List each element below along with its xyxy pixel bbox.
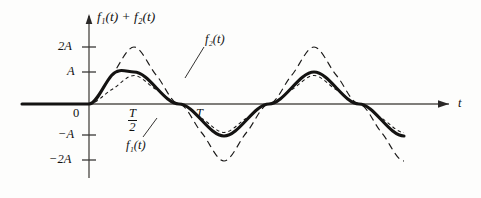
y-tick-label-2a: 2A bbox=[58, 40, 72, 53]
axis-title-text: f₁(t) + f₂(t) bbox=[97, 9, 155, 24]
f2-leader-line bbox=[185, 47, 204, 78]
x-axis-label: t bbox=[458, 97, 461, 110]
y-axis-arrowhead bbox=[86, 14, 93, 24]
x-tick-label-t: T bbox=[196, 107, 203, 120]
waveform-figure: f₁(t) + f₂(t) 2A A 0 −A −2A T 2 T t f₂(t… bbox=[0, 0, 481, 198]
axis-title: f₁(t) + f₂(t) bbox=[97, 10, 155, 24]
t-axis-arrowhead bbox=[438, 100, 449, 107]
plot-canvas bbox=[0, 0, 481, 198]
y-tick-label-neg-a: −A bbox=[58, 128, 74, 141]
curve-label-f2: f₂(t) bbox=[205, 33, 225, 46]
y-axis bbox=[86, 14, 93, 178]
y-tick-label-neg-2a: −2A bbox=[49, 153, 71, 166]
y-tick-label-a: A bbox=[67, 65, 75, 78]
f1-leader-line bbox=[143, 118, 157, 137]
x-tick-label-t-over-2: T 2 bbox=[128, 107, 137, 135]
y-tick-label-zero: 0 bbox=[73, 107, 79, 120]
fraction-denominator: 2 bbox=[128, 121, 137, 135]
fraction-numerator: T bbox=[128, 107, 137, 121]
curve-label-f1: f₁(t) bbox=[126, 139, 146, 152]
fraction-t-over-2: T 2 bbox=[128, 107, 137, 135]
